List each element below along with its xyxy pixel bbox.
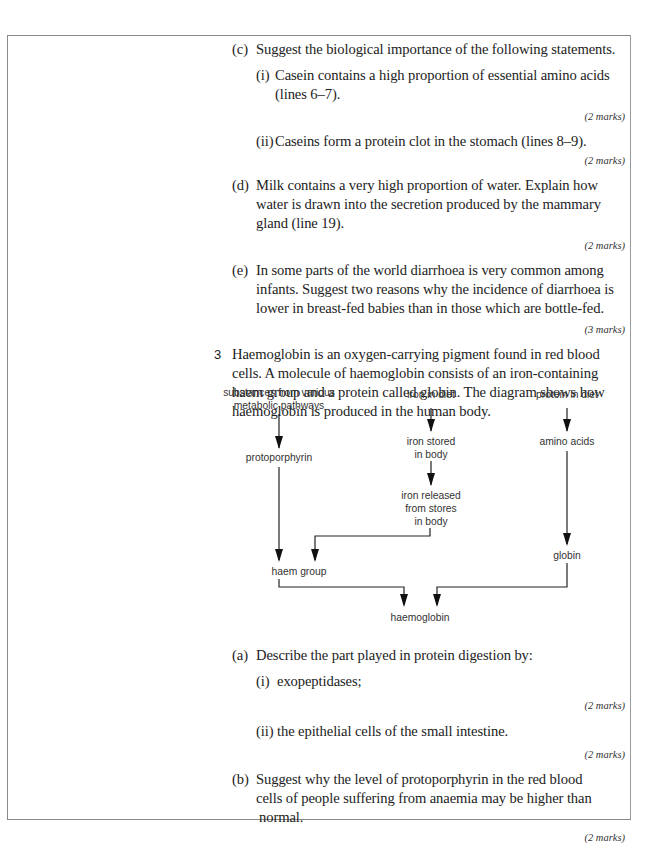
node-iron-released: iron released from stores in body [386, 489, 476, 528]
q3a-i-label: (i) [256, 672, 269, 691]
q3a-label: (a) [232, 646, 248, 665]
node-iron-stored-line1: iron stored [391, 435, 471, 448]
node-substances-line2: metabolic pathways [209, 399, 349, 412]
node-protein-in-diet: protein in diet [517, 388, 617, 401]
node-substances-line1: substances from various [209, 386, 349, 399]
q3b-label: (b) [232, 770, 249, 789]
q3b-line3: normal. [259, 808, 303, 827]
node-iron-released-line2: from stores [386, 502, 476, 515]
node-iron-released-line1: iron released [386, 489, 476, 502]
node-haemoglobin: haemoglobin [380, 611, 460, 624]
node-iron-stored: iron stored in body [391, 435, 471, 461]
node-iron-released-line3: in body [386, 515, 476, 528]
node-protoporphyrin: protoporphyrin [229, 451, 329, 464]
q3a-text: Describe the part played in protein dige… [256, 646, 533, 665]
node-iron-stored-line2: in body [391, 448, 471, 461]
q3a-ii-text: the epithelial cells of the small intest… [277, 722, 508, 741]
q3a-ii-label: (ii) [256, 722, 273, 741]
q3b-line2: cells of people suffering from anaemia m… [256, 789, 592, 808]
node-amino-acids: amino acids [517, 435, 617, 448]
node-haem-group: haem group [259, 565, 339, 578]
node-iron-in-diet: iron in diet [391, 388, 471, 401]
q3b-line1: Suggest why the level of protoporphyrin … [256, 770, 582, 789]
q3a-i-marks: (2 marks) [584, 700, 625, 711]
q3b-marks: (2 marks) [584, 832, 625, 843]
q3a-ii-marks: (2 marks) [584, 749, 625, 760]
q3a-i-text: exopeptidases; [277, 672, 362, 691]
node-globin: globin [527, 549, 607, 562]
node-substances: substances from various metabolic pathwa… [209, 386, 349, 412]
